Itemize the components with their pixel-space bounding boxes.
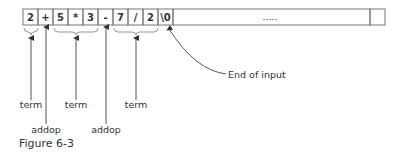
expression-diagram: 2+5*3-7/2\0 ..... term addop term addop … xyxy=(0,0,402,158)
buffer-cell-char: + xyxy=(41,12,49,23)
buffer-cell-char: 7 xyxy=(117,12,124,23)
brace-term-3 xyxy=(114,28,158,35)
buffer-cell-char: 2 xyxy=(147,12,154,23)
buffer-cell-char: 2 xyxy=(27,12,34,23)
buffer-cell-char: - xyxy=(103,12,107,23)
buffer-remainder: ..... xyxy=(173,9,385,25)
last-cell xyxy=(370,9,385,25)
buffer-cell-char: \0 xyxy=(160,12,171,23)
input-buffer: 2+5*3-7/2\0 xyxy=(23,9,173,25)
label-term-1: term xyxy=(20,99,43,110)
label-addop-2: addop xyxy=(91,124,121,135)
buffer-cell-char: 3 xyxy=(87,12,94,23)
brace-term-1 xyxy=(24,28,38,35)
brace-term-2 xyxy=(54,28,98,35)
label-addop-1: addop xyxy=(31,124,61,135)
figure-caption: Figure 6-3 xyxy=(19,137,74,150)
buffer-cell-char: / xyxy=(134,12,138,23)
ellipsis-text: ..... xyxy=(262,11,277,22)
label-term-3: term xyxy=(125,99,148,110)
buffer-cell-char: * xyxy=(73,12,79,23)
buffer-cell-char: 5 xyxy=(57,12,64,23)
arrow-end-of-input xyxy=(169,29,226,74)
label-term-2: term xyxy=(65,99,88,110)
label-end-of-input: End of input xyxy=(228,69,286,80)
